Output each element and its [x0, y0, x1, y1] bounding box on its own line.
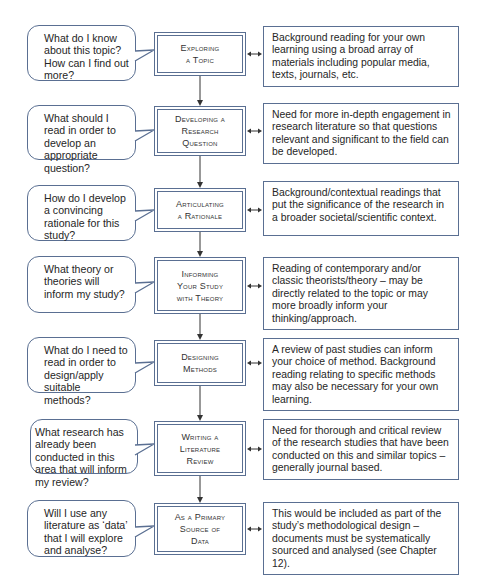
stage-label-line: Review: [180, 455, 221, 467]
double-arrow-icon: [246, 282, 263, 290]
stage-label-line: Research: [175, 125, 225, 137]
stage-label: InformingYour Studywith Theory: [157, 260, 243, 311]
question-bubble: What do I know about this topic? How can…: [27, 25, 136, 81]
stage-box: Exploringa Topic: [154, 32, 246, 76]
stage-label-line: As a Primary: [175, 511, 226, 523]
stage-label-text: Writing aLiteratureReview: [180, 431, 221, 467]
stage-label-line: Literature: [180, 443, 221, 455]
stage-label-line: Source of: [175, 523, 226, 535]
description-box: This would be included as part of the st…: [263, 502, 459, 575]
stage-label-text: Exploringa Topic: [181, 42, 220, 66]
speech-tail-icon: [134, 361, 156, 375]
stage-label: Exploringa Topic: [157, 35, 243, 73]
description-box: Need for more in-depth engagement in res…: [263, 103, 459, 164]
speech-tail-icon: [134, 443, 156, 457]
stage-label-text: InformingYour Studywith Theory: [177, 268, 224, 304]
stage-box: DesigningMethods: [154, 340, 246, 386]
stage-label-text: Developing aResearchQuestion: [175, 113, 225, 149]
question-bubble: How do I develop a convincing rationale …: [27, 185, 136, 241]
stage-box: Articulatinga Rationale: [154, 188, 246, 232]
down-arrow-icon: [196, 232, 204, 257]
description-box: Reading of contemporary and/or classic t…: [263, 257, 459, 330]
down-arrow-icon: [196, 476, 204, 503]
stage-label-line: a Topic: [181, 54, 220, 66]
double-arrow-icon: [246, 445, 263, 453]
stage-box: Developing aResearchQuestion: [154, 106, 246, 156]
double-arrow-icon: [246, 525, 263, 533]
stage-label-line: a Rationale: [176, 210, 224, 222]
stage-label-line: Methods: [181, 363, 219, 375]
stage-label-text: As a PrimarySource ofData: [175, 511, 226, 547]
stage-label-text: Articulatinga Rationale: [176, 198, 224, 222]
stage-label-line: Articulating: [176, 198, 224, 210]
question-bubble: What do I need to read in order to desig…: [27, 337, 136, 393]
stage-box: Writing aLiteratureReview: [154, 421, 246, 476]
question-bubble: What should I read in order to develop a…: [27, 105, 136, 160]
down-arrow-icon: [196, 386, 204, 421]
stage-box: As a PrimarySource ofData: [154, 503, 246, 555]
stage-label: DesigningMethods: [157, 343, 243, 383]
double-arrow-icon: [246, 206, 263, 214]
double-arrow-icon: [246, 127, 263, 135]
description-box: Background reading for your own learning…: [263, 26, 459, 87]
speech-tail-icon: [134, 281, 156, 295]
stage-label: Writing aLiteratureReview: [157, 424, 243, 473]
stage-label-line: Exploring: [181, 42, 220, 54]
stage-label-line: Your Study: [177, 280, 224, 292]
stage-box: InformingYour Studywith Theory: [154, 257, 246, 314]
stage-label-line: Writing a: [180, 431, 221, 443]
description-box: Need for thorough and critical review of…: [263, 419, 459, 480]
stage-label-text: DesigningMethods: [181, 351, 219, 375]
speech-tail-icon: [134, 129, 156, 143]
question-bubble: What theory or theories will inform my s…: [27, 256, 136, 313]
description-box: Background/contextual readings that put …: [263, 181, 459, 236]
stage-label-line: Data: [175, 535, 226, 547]
double-arrow-icon: [246, 50, 263, 58]
stage-label-line: Informing: [177, 268, 224, 280]
speech-tail-icon: [134, 525, 156, 539]
stage-label: Articulatinga Rationale: [157, 191, 243, 229]
down-arrow-icon: [196, 76, 204, 106]
stage-label: Developing aResearchQuestion: [157, 109, 243, 153]
stage-label: As a PrimarySource ofData: [157, 506, 243, 552]
question-bubble: What research has already been conducted…: [30, 419, 138, 474]
description-box: A review of past studies can inform your…: [263, 338, 459, 411]
down-arrow-icon: [196, 156, 204, 188]
stage-label-line: Developing a: [175, 113, 225, 125]
speech-tail-icon: [134, 49, 156, 63]
down-arrow-icon: [196, 314, 204, 340]
speech-tail-icon: [134, 209, 156, 223]
double-arrow-icon: [246, 359, 263, 367]
stage-label-line: Designing: [181, 351, 219, 363]
question-bubble: Will I use any literature as ‘data’ that…: [27, 500, 136, 557]
stage-label-line: Question: [175, 137, 225, 149]
stage-label-line: with Theory: [177, 292, 224, 304]
